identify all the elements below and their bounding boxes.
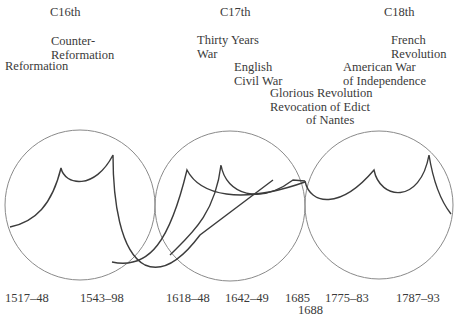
date-label: 1543–98: [80, 291, 124, 305]
c18-cycle-curve: [305, 155, 451, 214]
century-circle-c18: [305, 131, 453, 279]
event-english-civil-war: English Civil War: [234, 60, 282, 88]
event-revocation-edict-nantes: Revocation of Edict: [270, 100, 370, 114]
event-french-revolution: French Revolution: [391, 33, 447, 61]
event-reformation: Reformation: [5, 59, 68, 73]
event-revocation-edict-nantes-2: of Nantes: [306, 113, 354, 127]
event-american-war-of-independence: American War of Independence: [343, 60, 426, 88]
date-label: 1618–48: [166, 291, 210, 305]
date-label: 1775–83: [325, 291, 369, 305]
c17-cycle-curve-b: [170, 165, 305, 255]
event-glorious-revolution: Glorious Revolution: [270, 86, 372, 100]
date-label: 1517–48: [5, 291, 49, 305]
event-thirty-years-war: Thirty Years War: [197, 33, 259, 61]
date-label: 1688: [298, 303, 323, 315]
date-label: 1642–49: [225, 291, 269, 305]
date-label: 1787–93: [396, 291, 440, 305]
century-label-c17: C17th: [220, 5, 251, 19]
century-label-c16: C16th: [50, 5, 81, 19]
century-label-c18: C18th: [384, 5, 415, 19]
century-circle-c16: [5, 130, 155, 280]
c16-cycle-curve: [10, 155, 273, 267]
event-counter-reformation: Counter- Reformation: [51, 34, 114, 62]
